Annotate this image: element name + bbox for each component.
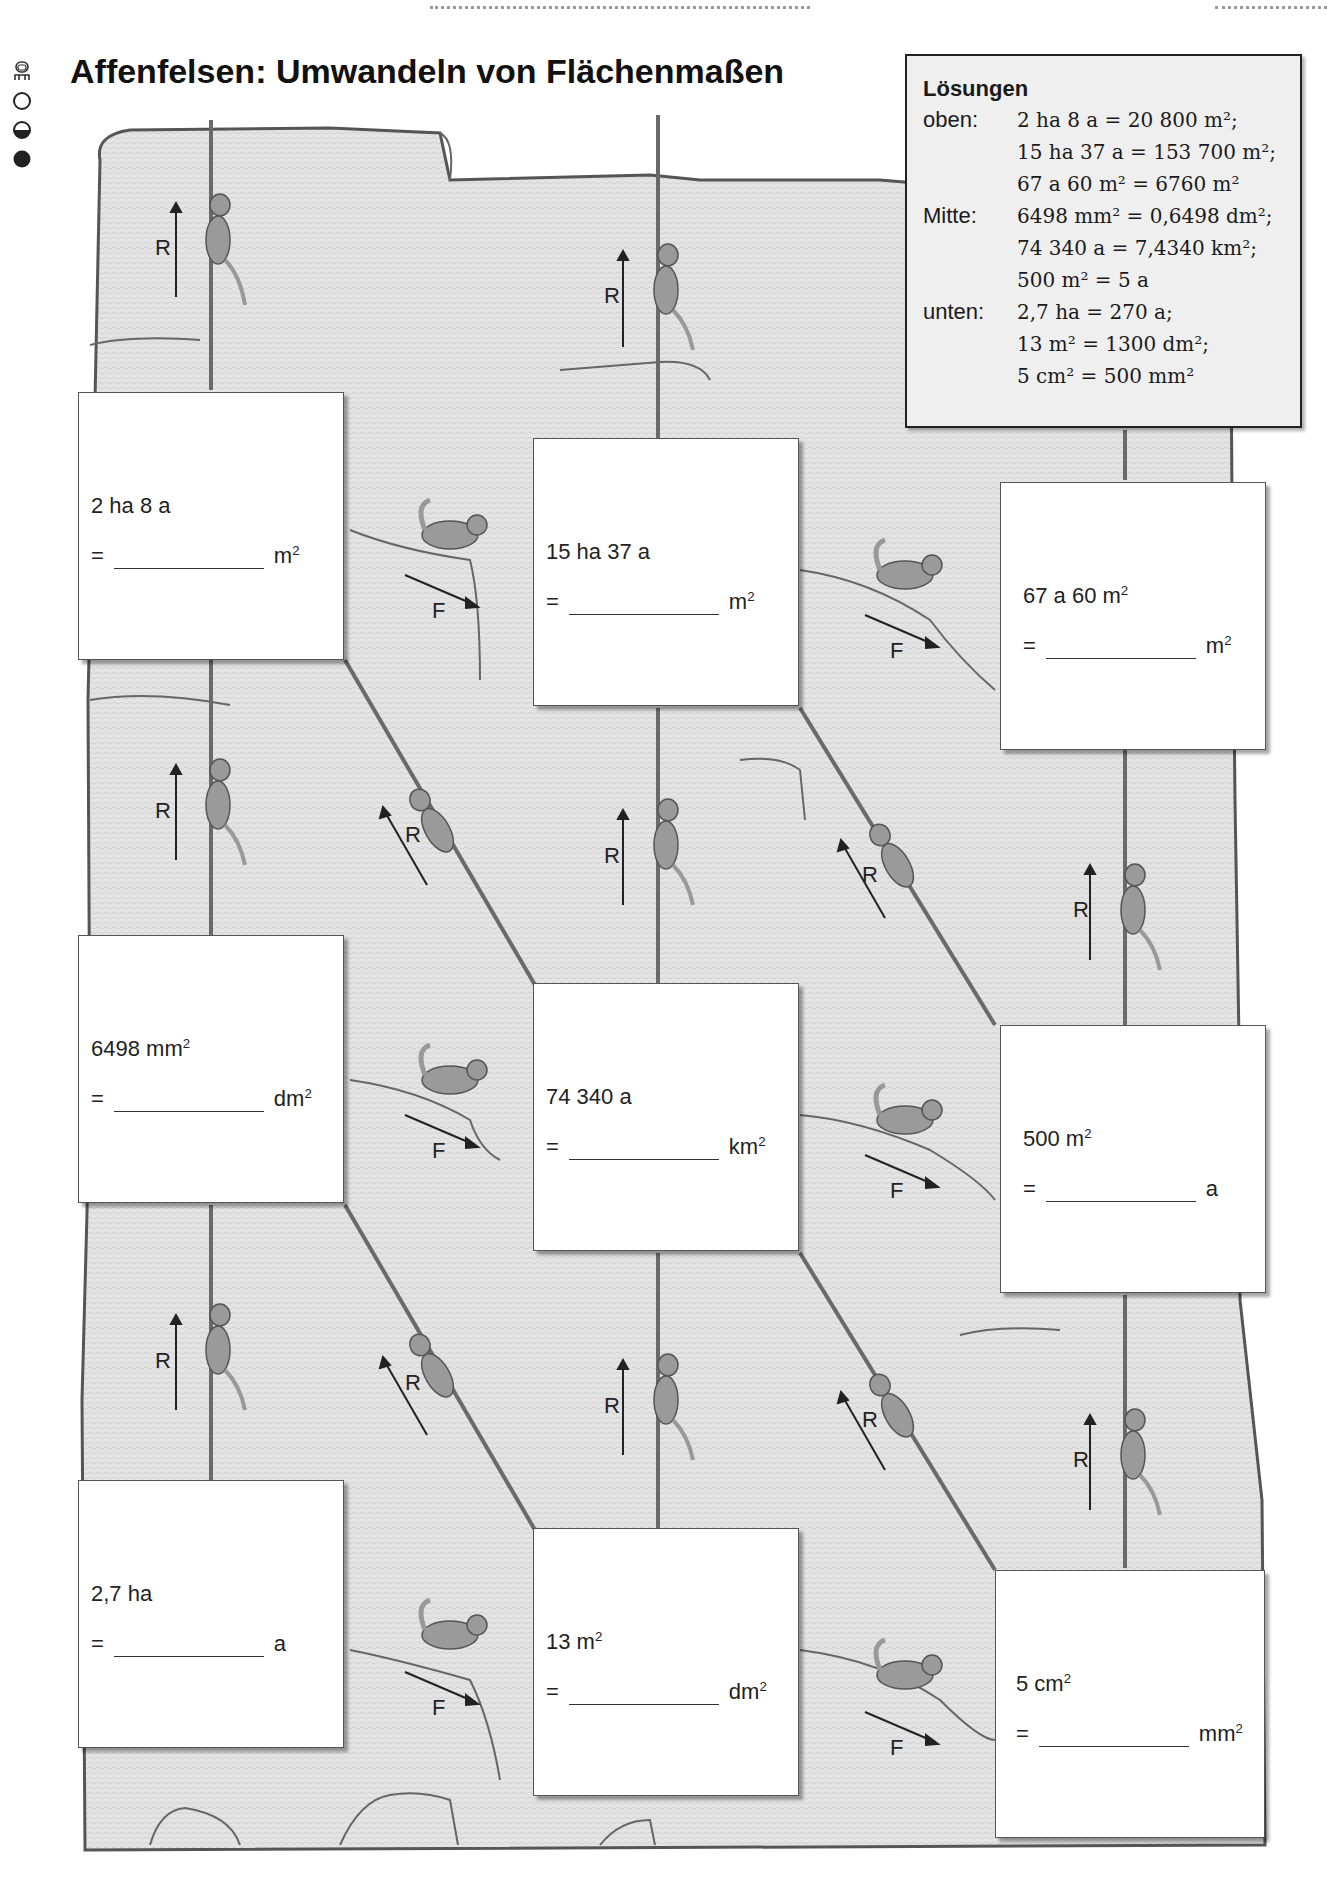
arrow-label-up: R	[155, 1348, 171, 1374]
arrow-label-up: R	[405, 822, 421, 848]
answer-input[interactable]	[569, 1139, 719, 1160]
solution-line: 5 cm² = 500 mm²	[1017, 360, 1209, 392]
task-unit: dm2	[274, 1086, 312, 1112]
task-answer-row: = km2	[546, 1134, 766, 1160]
solution-line: 74 340 a = 7,4340 km²;	[1017, 232, 1273, 264]
arrow-label-down: F	[890, 638, 903, 664]
task-given: 67 a 60 m2	[1023, 583, 1128, 609]
answer-input[interactable]	[114, 1091, 264, 1112]
solution-line: 6498 mm² = 0,6498 dm²;	[1017, 200, 1273, 232]
solution-line: 500 m² = 5 a	[1017, 264, 1273, 296]
answer-input[interactable]	[569, 594, 719, 615]
task-card-oben-3: 67 a 60 m2 = m2	[1000, 482, 1266, 750]
arrow-label-down: F	[432, 598, 445, 624]
solution-line: 2,7 ha = 270 a;	[1017, 296, 1209, 328]
answer-input[interactable]	[1039, 1726, 1189, 1747]
task-given: 6498 mm2	[91, 1036, 190, 1062]
task-unit: dm2	[729, 1679, 767, 1705]
solutions-group-mitte: Mitte: 6498 mm² = 0,6498 dm²; 74 340 a =…	[923, 200, 1300, 296]
answer-input[interactable]	[114, 1636, 264, 1657]
answer-input[interactable]	[569, 1684, 719, 1705]
solution-line: 2 ha 8 a = 20 800 m²;	[1017, 104, 1276, 136]
arrow-label-up: R	[604, 283, 620, 309]
arrow-label-down: F	[432, 1695, 445, 1721]
task-unit: m2	[729, 589, 755, 615]
task-card-mitte-1: 6498 mm2 = dm2	[78, 935, 344, 1203]
task-answer-row: = m2	[91, 543, 300, 569]
arrow-label-up: R	[155, 235, 171, 261]
arrow-label-up: R	[862, 862, 878, 888]
task-card-unten-3: 5 cm2 = mm2	[995, 1570, 1265, 1838]
solution-line: 13 m² = 1300 dm²;	[1017, 328, 1209, 360]
task-given: 2 ha 8 a	[91, 493, 171, 519]
solutions-box: Lösungen oben: 2 ha 8 a = 20 800 m²; 15 …	[905, 54, 1302, 428]
solution-line: 15 ha 37 a = 153 700 m²;	[1017, 136, 1276, 168]
arrow-label-up: R	[1073, 1447, 1089, 1473]
solutions-title: Lösungen	[923, 76, 1300, 102]
arrow-label-down: F	[890, 1178, 903, 1204]
task-answer-row: = dm2	[91, 1086, 312, 1112]
arrow-label-down: F	[890, 1735, 903, 1761]
solutions-group-unten: unten: 2,7 ha = 270 a; 13 m² = 1300 dm²;…	[923, 296, 1300, 392]
arrow-label-down: F	[432, 1138, 445, 1164]
task-unit: m2	[274, 543, 300, 569]
task-answer-row: = m2	[1023, 633, 1232, 659]
task-card-oben-2: 15 ha 37 a = m2	[533, 438, 799, 706]
arrow-label-up: R	[862, 1407, 878, 1433]
answer-input[interactable]	[114, 548, 264, 569]
answer-input[interactable]	[1046, 638, 1196, 659]
arrow-label-up: R	[1073, 897, 1089, 923]
task-given: 5 cm2	[1016, 1671, 1071, 1697]
arrow-label-up: R	[604, 843, 620, 869]
task-answer-row: = m2	[546, 589, 755, 615]
solutions-group-oben: oben: 2 ha 8 a = 20 800 m²; 15 ha 37 a =…	[923, 104, 1300, 200]
task-given: 74 340 a	[546, 1084, 632, 1110]
task-answer-row: = a	[91, 1631, 286, 1657]
task-card-oben-1: 2 ha 8 a = m2	[78, 392, 344, 660]
task-given: 15 ha 37 a	[546, 539, 650, 565]
task-answer-row: = dm2	[546, 1679, 767, 1705]
arrow-label-up: R	[604, 1393, 620, 1419]
task-card-mitte-3: 500 m2 = a	[1000, 1025, 1266, 1293]
task-unit: km2	[729, 1134, 766, 1160]
task-unit: a	[274, 1631, 286, 1657]
task-unit: a	[1206, 1176, 1218, 1202]
arrow-label-up: R	[405, 1370, 421, 1396]
task-unit: mm2	[1199, 1721, 1243, 1747]
task-answer-row: = mm2	[1016, 1721, 1243, 1747]
task-given: 13 m2	[546, 1629, 602, 1655]
answer-input[interactable]	[1046, 1181, 1196, 1202]
task-card-mitte-2: 74 340 a = km2	[533, 983, 799, 1251]
task-card-unten-2: 13 m2 = dm2	[533, 1528, 799, 1796]
task-unit: m2	[1206, 633, 1232, 659]
solution-line: 67 a 60 m² = 6760 m²	[1017, 168, 1276, 200]
task-given: 500 m2	[1023, 1126, 1092, 1152]
task-card-unten-1: 2,7 ha = a	[78, 1480, 344, 1748]
task-answer-row: = a	[1023, 1176, 1218, 1202]
task-given: 2,7 ha	[91, 1581, 152, 1607]
arrow-label-up: R	[155, 798, 171, 824]
